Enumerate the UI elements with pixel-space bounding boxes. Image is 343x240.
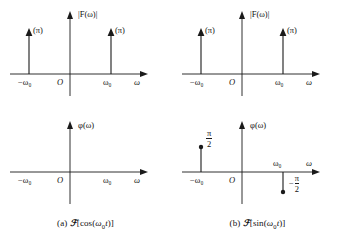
caption-body-close: )] [108,218,114,228]
fraction-numerator: π [206,129,212,138]
x-axis-label: ω [134,77,140,87]
x-axis-arrowhead [312,169,320,175]
x-axis-arrowhead [140,71,148,77]
tick-label-positive-w0: ω₀ [275,77,284,87]
panel-b: |F(ω)| (π) (π) −ω₀ O ω₀ ω φ(ω) [172,0,343,240]
caption-index: (a) [57,218,67,228]
tick-label-negative-w0: −ω₀ [18,175,31,185]
impulse-weight-label-left: (π) [33,25,43,35]
minus-sign: − [289,179,294,188]
caption-index: (b) [230,218,241,228]
tick-label-positive-w0: ω₀ [103,77,112,87]
impulse-arrowhead-positive-w0 [280,28,287,36]
x-axis-arrowhead [312,71,320,77]
y-axis-arrowhead [239,11,245,19]
panel-b-magnitude-plot: |F(ω)| (π) (π) −ω₀ O ω₀ ω [172,4,343,102]
panel-b-phase-plot: φ(ω) π 2 − π 2 −ω₀ O ω₀ ω [172,112,343,210]
phase-point-positive-w0 [281,190,285,194]
phase-value-label-positive-pi-over-2: π 2 [206,129,212,148]
x-axis-arrowhead [140,169,148,175]
impulse-weight-label-right: (π) [287,25,297,35]
tick-label-negative-w0: −ω₀ [18,77,31,87]
phase-axis-label: φ(ω) [78,120,94,130]
fraction-group: π 2 [295,174,299,193]
magnitude-axis-label: |F(ω)| [78,9,97,19]
fraction-denominator: 2 [295,185,299,194]
origin-label: O [57,77,63,87]
x-axis-label: ω [134,175,140,185]
origin-label: O [229,175,235,185]
panel-b-caption: (b) ℱ[sin(ω0t)] [172,218,343,230]
tick-label-negative-w0: −ω₀ [190,77,203,87]
impulse-weight-label-right: (π) [115,25,125,35]
y-axis-arrowhead [239,121,245,129]
caption-body-close: )] [279,218,285,228]
tick-label-positive-w0: ω₀ [273,158,282,168]
panel-a-caption: (a) ℱ[cos(ω0t)] [0,218,171,230]
panel-a: |F(ω)| (π) (π) −ω₀ O ω₀ ω φ(ω) −ω₀ O ω₀ … [0,0,171,240]
impulse-arrowhead-negative-w0 [26,28,33,36]
y-axis-arrowhead [67,121,73,129]
x-axis-label: ω [306,158,312,168]
origin-label: O [57,175,63,185]
fourier-operator-symbol: ℱ [70,218,77,228]
impulse-arrowhead-positive-w0 [108,28,115,36]
phase-value-label-negative-pi-over-2: − π 2 [289,174,299,193]
x-axis-label: ω [306,77,312,87]
panel-a-phase-plot: φ(ω) −ω₀ O ω₀ ω [0,112,171,210]
impulse-arrowhead-negative-w0 [198,28,205,36]
fourier-operator-symbol: ℱ [243,218,250,228]
panel-a-magnitude-plot: |F(ω)| (π) (π) −ω₀ O ω₀ ω [0,4,171,102]
y-axis-arrowhead [67,11,73,19]
origin-label: O [229,77,235,87]
magnitude-axis-label: |F(ω)| [250,9,269,19]
fraction-numerator: π [295,174,299,183]
tick-label-negative-w0: −ω₀ [190,175,203,185]
fraction-denominator: 2 [206,140,212,149]
caption-body-open: [sin( [250,218,267,228]
caption-body-open: [cos( [77,218,96,228]
tick-label-positive-w0: ω₀ [103,175,112,185]
phase-axis-label: φ(ω) [250,120,266,130]
phase-point-negative-w0 [199,145,203,149]
impulse-weight-label-left: (π) [205,25,215,35]
figure-fourier-transform-pairs: |F(ω)| (π) (π) −ω₀ O ω₀ ω φ(ω) −ω₀ O ω₀ … [0,0,343,240]
